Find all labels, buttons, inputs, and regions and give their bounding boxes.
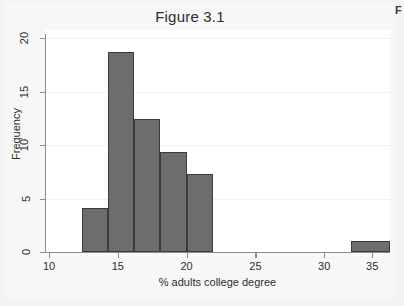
y-tick-label: 5 [20,187,32,211]
y-tick-label: 20 [18,26,30,50]
x-axis-title: % adults college degree [45,276,390,288]
histogram-bar[interactable] [134,119,160,252]
page-title: Figure 3.1 [0,8,380,25]
y-tick-label: 0 [20,240,32,264]
x-tick-mark-35 [372,253,373,258]
x-tick-mark-20 [187,253,188,258]
x-tick-mark-10 [49,253,50,258]
x-axis-line [41,252,390,253]
x-tick-mark-25 [255,253,256,258]
histogram-bar[interactable] [160,152,186,252]
x-tick-label: 25 [240,260,270,272]
histogram-bars [45,30,390,252]
y-axis-title: Frequency [10,94,22,174]
y-tick-mark-5 [40,199,45,200]
x-tick-label: 15 [103,260,133,272]
y-tick-mark-15 [40,92,45,93]
x-tick-label: 35 [357,260,387,272]
y-tick-mark-20 [40,38,45,39]
corner-text-fragment: F [395,4,402,16]
histogram-bar[interactable] [351,241,390,252]
x-tick-label: 10 [34,260,64,272]
y-axis-line [45,34,46,253]
figure-container: Figure 3.1 F 20 15 10 5 0 10 15 20 25 30… [0,0,404,306]
histogram-bar[interactable] [108,52,134,252]
x-tick-label: 30 [309,260,339,272]
x-tick-mark-30 [324,253,325,258]
y-tick-mark-0 [40,252,45,253]
y-tick-mark-10 [40,145,45,146]
x-tick-label: 20 [172,260,202,272]
x-tick-mark-15 [118,253,119,258]
histogram-bar[interactable] [82,208,108,252]
histogram-bar[interactable] [187,174,213,252]
